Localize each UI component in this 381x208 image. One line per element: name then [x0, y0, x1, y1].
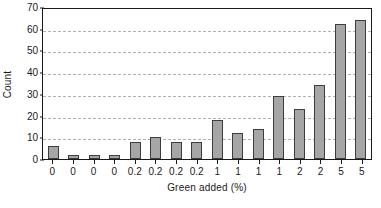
x-axis-title: Green added (%)	[42, 182, 372, 193]
bar[interactable]	[335, 24, 346, 159]
x-axis-tick-slot	[228, 160, 249, 164]
x-axis-tick-slot	[42, 160, 63, 164]
x-axis-tick-mark	[155, 160, 156, 164]
y-axis-tick-label: 40	[14, 68, 38, 78]
x-axis-tick-label: 5	[331, 165, 352, 179]
x-axis-tick-slot	[269, 160, 290, 164]
x-axis-tick-mark	[362, 160, 363, 164]
x-axis-tick-mark	[73, 160, 74, 164]
bar[interactable]	[48, 146, 59, 159]
bar[interactable]	[212, 120, 223, 159]
x-axis-tick-slot	[63, 160, 84, 164]
y-axis-tick-label: 30	[14, 90, 38, 100]
bar[interactable]	[273, 96, 284, 159]
bar-slot	[207, 9, 228, 159]
x-axis-tick-mark	[197, 160, 198, 164]
bar-slot	[146, 9, 167, 159]
bar-slot	[105, 9, 126, 159]
x-axis-tick-mark	[320, 160, 321, 164]
x-axis-tick-slot	[207, 160, 228, 164]
bar[interactable]	[68, 155, 79, 159]
bar-slot	[289, 9, 310, 159]
x-axis-tick-label: 1	[228, 165, 249, 179]
x-axis-tick-label: 1	[269, 165, 290, 179]
bar[interactable]	[171, 142, 182, 159]
bar[interactable]	[150, 137, 161, 159]
bar[interactable]	[355, 20, 366, 159]
x-axis-tick-label: 0	[42, 165, 63, 179]
bar-slot	[248, 9, 269, 159]
bar-slot	[269, 9, 290, 159]
y-axis-tick-label: 50	[14, 46, 38, 56]
bar-slot	[166, 9, 187, 159]
x-axis-tick-label: 0.2	[145, 165, 166, 179]
x-axis-tick-label: 0.2	[186, 165, 207, 179]
x-axis-tick-label: 0	[83, 165, 104, 179]
bar[interactable]	[89, 155, 100, 159]
x-axis-tick-mark	[238, 160, 239, 164]
y-axis-tick-label: 0	[14, 155, 38, 165]
x-axis-tick-slot	[310, 160, 331, 164]
x-axis-tick-slot	[83, 160, 104, 164]
x-axis-tick-label: 0	[63, 165, 84, 179]
bar[interactable]	[130, 142, 141, 159]
x-axis-tick-slot	[351, 160, 372, 164]
x-axis-tick-label: 0	[104, 165, 125, 179]
x-axis-tick-label: 1	[207, 165, 228, 179]
bar[interactable]	[232, 133, 243, 159]
bar[interactable]	[294, 109, 305, 159]
bar-slot	[330, 9, 351, 159]
bar[interactable]	[253, 129, 264, 159]
bar[interactable]	[191, 142, 202, 159]
x-axis-tick-mark	[176, 160, 177, 164]
x-axis-tick-mark	[114, 160, 115, 164]
x-axis-tick-slot	[166, 160, 187, 164]
x-axis-tick-labels: 00000.20.20.20.211112255	[42, 165, 372, 179]
x-axis-tick-mark	[341, 160, 342, 164]
bar-slot	[351, 9, 372, 159]
x-axis-tick-label: 0.2	[166, 165, 187, 179]
x-axis-tick-slot	[248, 160, 269, 164]
bar-slot	[187, 9, 208, 159]
bars-layer	[43, 9, 371, 159]
x-axis-tick-slot	[125, 160, 146, 164]
x-axis-tick-label: 0.2	[125, 165, 146, 179]
bar-slot	[310, 9, 331, 159]
bar-chart-figure: Count 010203040506070 00000.20.20.20.211…	[0, 0, 381, 208]
x-axis-tick-label: 1	[248, 165, 269, 179]
x-axis-tick-mark	[279, 160, 280, 164]
y-axis-tick-label: 10	[14, 133, 38, 143]
x-axis-tick-mark	[300, 160, 301, 164]
x-axis-tick-label: 2	[290, 165, 311, 179]
x-axis-tick-slot	[331, 160, 352, 164]
x-axis-tick-mark	[217, 160, 218, 164]
x-axis-tick-slot	[104, 160, 125, 164]
bar[interactable]	[314, 85, 325, 159]
x-axis-tick-slot	[145, 160, 166, 164]
plot-area	[42, 8, 372, 160]
y-axis-title-text: Count	[3, 70, 14, 98]
x-axis-tick-mark	[259, 160, 260, 164]
bar-slot	[228, 9, 249, 159]
bar-slot	[125, 9, 146, 159]
y-axis-tick-labels: 010203040506070	[14, 8, 38, 160]
bar-slot	[43, 9, 64, 159]
y-axis-tick-label: 60	[14, 25, 38, 35]
bar[interactable]	[109, 155, 120, 159]
x-axis-tick-mark	[94, 160, 95, 164]
y-axis-tick-label: 70	[14, 3, 38, 13]
x-axis-tick-marks	[42, 160, 372, 164]
x-axis-tick-slot	[186, 160, 207, 164]
x-axis-tick-mark	[52, 160, 53, 164]
bar-slot	[64, 9, 85, 159]
x-axis-tick-label: 5	[351, 165, 372, 179]
x-axis-tick-slot	[290, 160, 311, 164]
x-axis-tick-label: 2	[310, 165, 331, 179]
bar-slot	[84, 9, 105, 159]
x-axis-tick-mark	[135, 160, 136, 164]
y-axis-tick-label: 20	[14, 112, 38, 122]
